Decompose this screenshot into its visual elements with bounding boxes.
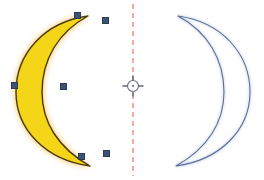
node-bottom-right-tip[interactable] [103,150,110,157]
transform-origin-marker[interactable] [123,76,144,97]
source-shape-group[interactable] [16,16,90,166]
origin-center-dot [132,85,134,87]
crescent-moon-shape[interactable] [16,16,90,166]
mirrored-shape-group[interactable] [176,16,250,166]
node-top-right-tip[interactable] [102,17,109,24]
node-bottom[interactable] [78,153,85,160]
node-inner-middle[interactable] [60,83,67,90]
canvas-artwork [0,0,264,180]
vector-canvas[interactable] [0,0,264,180]
crescent-moon-mirrored-glow [176,16,250,166]
node-left-middle[interactable] [11,82,18,89]
crescent-moon-mirrored-outline[interactable] [176,16,250,166]
node-top[interactable] [74,12,81,19]
